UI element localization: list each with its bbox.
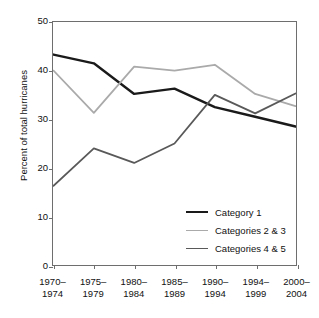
y-tick-label: 10 — [22, 212, 48, 222]
hurricane-category-chart: Percent of total hurricanes 01020304050 … — [0, 0, 318, 318]
legend-label: Categories 4 & 5 — [215, 243, 286, 254]
legend-line-swatch — [186, 230, 208, 231]
y-tick-mark — [49, 169, 53, 170]
legend-item[interactable]: Categories 2 & 3 — [186, 221, 298, 239]
legend-item[interactable]: Categories 4 & 5 — [186, 239, 298, 257]
x-tick-label-line: 2004 — [274, 288, 319, 300]
x-tick-label-line: 1999 — [233, 288, 279, 300]
y-tick-label: 30 — [22, 114, 48, 124]
x-tick-label-line: 1974 — [30, 288, 76, 300]
x-tick-label-line: 1970– — [30, 276, 76, 288]
x-tick-label-line: 1979 — [70, 288, 116, 300]
y-tick-label: 0 — [22, 261, 48, 271]
x-tick-label-line: 1989 — [152, 288, 198, 300]
x-tick-label: 1980–1984 — [111, 276, 157, 299]
legend-label: Categories 2 & 3 — [215, 225, 286, 236]
legend-label: Category 1 — [215, 207, 261, 218]
x-tick-label: 1970–1974 — [30, 276, 76, 299]
x-axis-tick-labels: 1970–19741975–19791980–19841985–19891990… — [52, 270, 297, 314]
y-tick-label: 50 — [22, 16, 48, 26]
series-line — [53, 55, 295, 127]
legend-line-swatch — [186, 211, 208, 213]
series-line — [53, 93, 295, 185]
legend-line-swatch — [186, 248, 208, 249]
x-tick-mark — [135, 265, 136, 269]
x-tick-mark — [94, 265, 95, 269]
x-tick-mark — [216, 265, 217, 269]
x-tick-mark — [54, 265, 55, 269]
x-tick-label-line: 1980– — [111, 276, 157, 288]
x-tick-label-line: 2000– — [274, 276, 319, 288]
x-tick-label: 1975–1979 — [70, 276, 116, 299]
x-tick-label-line: 1985– — [152, 276, 198, 288]
y-tick-label: 20 — [22, 163, 48, 173]
x-tick-label-line: 1984 — [111, 288, 157, 300]
y-tick-mark — [49, 218, 53, 219]
y-tick-mark — [49, 71, 53, 72]
x-tick-label-line: 1994 — [192, 288, 238, 300]
y-tick-mark — [49, 22, 53, 23]
x-tick-label-line: 1990– — [192, 276, 238, 288]
legend-item[interactable]: Category 1 — [186, 203, 298, 221]
legend: Category 1Categories 2 & 3Categories 4 &… — [186, 203, 298, 257]
x-tick-label-line: 1975– — [70, 276, 116, 288]
y-tick-mark — [49, 267, 53, 268]
y-tick-label: 40 — [22, 65, 48, 75]
x-tick-label: 1985–1989 — [152, 276, 198, 299]
x-tick-mark — [257, 265, 258, 269]
y-tick-mark — [49, 120, 53, 121]
x-tick-mark — [176, 265, 177, 269]
x-tick-label-line: 1994– — [233, 276, 279, 288]
x-tick-label: 1994–1999 — [233, 276, 279, 299]
y-axis-tick-labels: 01020304050 — [22, 0, 48, 318]
x-tick-mark — [298, 265, 299, 269]
x-tick-label: 2000–2004 — [274, 276, 319, 299]
x-tick-label: 1990–1994 — [192, 276, 238, 299]
